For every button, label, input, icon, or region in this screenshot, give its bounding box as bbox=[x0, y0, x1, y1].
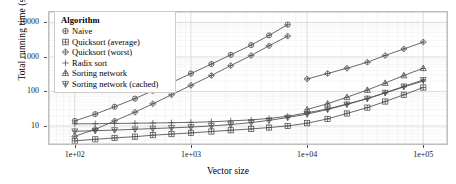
legend-item: Sorting network bbox=[59, 68, 171, 79]
y-axis-title: Total running time (s) bbox=[17, 0, 27, 98]
legend-item-label: Sorting network bbox=[72, 68, 127, 79]
x-axis-title: Vector size bbox=[0, 166, 456, 176]
plus-icon bbox=[59, 58, 72, 68]
y-tick-label: 100 bbox=[0, 86, 39, 95]
triangle-down-plus-icon bbox=[59, 79, 72, 89]
y-tick-mark bbox=[44, 22, 47, 23]
x-tick-label: 1e+05 bbox=[400, 150, 446, 159]
x-tick-mark bbox=[75, 145, 76, 148]
y-tick-label: 10000 bbox=[0, 17, 39, 26]
legend-item: Sorting network (cached) bbox=[59, 79, 171, 90]
legend-item: Quicksort (worst) bbox=[59, 47, 171, 58]
legend-title: Algorithm bbox=[61, 15, 171, 25]
x-tick-label: 1e+04 bbox=[284, 150, 330, 159]
x-tick-label: 1e+02 bbox=[52, 150, 98, 159]
y-tick-mark bbox=[44, 91, 47, 92]
y-tick-mark bbox=[44, 126, 47, 127]
x-tick-mark bbox=[423, 145, 424, 148]
diamond-plus-icon bbox=[59, 47, 72, 57]
legend-item-label: Sorting network (cached) bbox=[72, 79, 158, 90]
legend-item: Quicksort (average) bbox=[59, 37, 171, 48]
legend-item: Radix sort bbox=[59, 58, 171, 69]
square-plus-icon bbox=[59, 37, 72, 47]
x-tick-mark bbox=[191, 145, 192, 148]
circle-plus-icon bbox=[59, 26, 72, 36]
triangle-plus-icon bbox=[59, 68, 72, 78]
legend-item-label: Quicksort (average) bbox=[72, 37, 140, 48]
x-tick-label: 1e+03 bbox=[168, 150, 214, 159]
series-1 bbox=[72, 85, 426, 144]
y-tick-label: 10 bbox=[0, 121, 39, 130]
y-tick-label: 1000 bbox=[0, 52, 39, 61]
legend-item-label: Quicksort (worst) bbox=[72, 47, 132, 58]
x-tick-mark bbox=[307, 145, 308, 148]
chart-figure: Total running time (s) Vector size 10100… bbox=[0, 0, 456, 184]
y-tick-mark bbox=[44, 57, 47, 58]
legend-item-label: Radix sort bbox=[72, 58, 107, 69]
legend-item: Naive bbox=[59, 26, 171, 37]
legend: Algorithm NaiveQuicksort (average)Quicks… bbox=[54, 11, 176, 93]
legend-entries: NaiveQuicksort (average)Quicksort (worst… bbox=[59, 26, 171, 89]
legend-item-label: Naive bbox=[72, 26, 92, 37]
